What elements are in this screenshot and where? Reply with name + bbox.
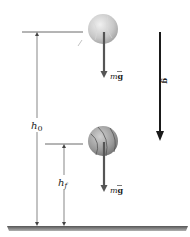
weight-label-initial: mg [110,71,124,81]
weight-arrowhead-initial [101,71,108,78]
gravity-label: g [161,78,171,84]
ground [7,226,188,231]
gravity-arrowhead [156,131,164,141]
falling-ball-diagram: h0 hf mg g mg [0,0,190,237]
weight-arrowhead-final [101,185,108,192]
weight-label-final: mg [110,185,124,195]
tick-mark [78,40,82,46]
